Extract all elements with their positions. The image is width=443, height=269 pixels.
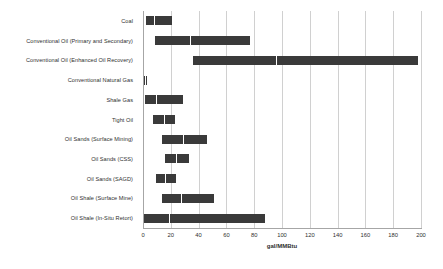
median-divider [183, 135, 184, 144]
median-divider [169, 214, 170, 223]
bar-row [143, 76, 421, 85]
x-tick-label: 20 [168, 231, 174, 239]
category-axis-labels: CoalConventional Oil (Primary and Second… [0, 11, 138, 228]
category-label: Conventional Oil (Enhanced Oil Recovery) [26, 55, 133, 65]
range-bar [193, 56, 418, 65]
gridline [421, 11, 422, 228]
bar-row [143, 135, 421, 144]
range-bar [146, 16, 172, 25]
median-divider [190, 36, 191, 45]
bar-row [143, 174, 421, 183]
bar-row [143, 36, 421, 45]
bar-row [143, 95, 421, 104]
category-label: Oil Sands (CSS) [91, 154, 133, 164]
category-label: Oil Shale (In-Situ Retort) [71, 213, 133, 223]
bar-row [143, 154, 421, 163]
category-label: Conventional Oil (Primary and Secondary) [26, 36, 133, 46]
x-axis-tick-labels: 020406080100120140160180200 [143, 231, 433, 243]
bar-row [143, 56, 421, 65]
x-tick-label: 60 [223, 231, 229, 239]
plot-area [143, 11, 421, 228]
range-bar [162, 135, 206, 144]
x-tick-label: 0 [141, 231, 144, 239]
x-tick-label: 200 [416, 231, 426, 239]
range-bar [155, 36, 250, 45]
median-divider [181, 194, 182, 203]
median-divider [165, 174, 166, 183]
category-label: Coal [121, 16, 133, 26]
median-divider [145, 76, 146, 85]
category-label: Shale Gas [106, 95, 133, 105]
median-divider [176, 154, 177, 163]
x-tick-label: 120 [305, 231, 315, 239]
bar-row [143, 115, 421, 124]
category-label: Tight Oil [112, 115, 133, 125]
water-intensity-range-chart: CoalConventional Oil (Primary and Second… [0, 0, 443, 269]
x-tick-label: 160 [361, 231, 371, 239]
x-tick-label: 100 [277, 231, 287, 239]
bar-row [143, 16, 421, 25]
category-label: Oil Sands (SAGD) [87, 174, 133, 184]
range-bar [144, 214, 265, 223]
range-bar [162, 194, 213, 203]
x-axis-title: gal/MMBtu [143, 243, 421, 249]
median-divider [276, 56, 277, 65]
x-tick-label: 80 [251, 231, 257, 239]
median-divider [154, 16, 155, 25]
median-divider [156, 95, 157, 104]
x-axis-line [143, 228, 422, 229]
category-label: Oil Shale (Surface Mine) [71, 193, 133, 203]
bar-row [143, 194, 421, 203]
x-tick-label: 180 [388, 231, 398, 239]
range-bar [145, 95, 183, 104]
median-divider [164, 115, 165, 124]
category-label: Oil Sands (Surface Mining) [65, 134, 133, 144]
x-tick-label: 40 [195, 231, 201, 239]
category-label: Conventional Natural Gas [68, 75, 133, 85]
x-tick-label: 140 [333, 231, 343, 239]
bar-row [143, 214, 421, 223]
